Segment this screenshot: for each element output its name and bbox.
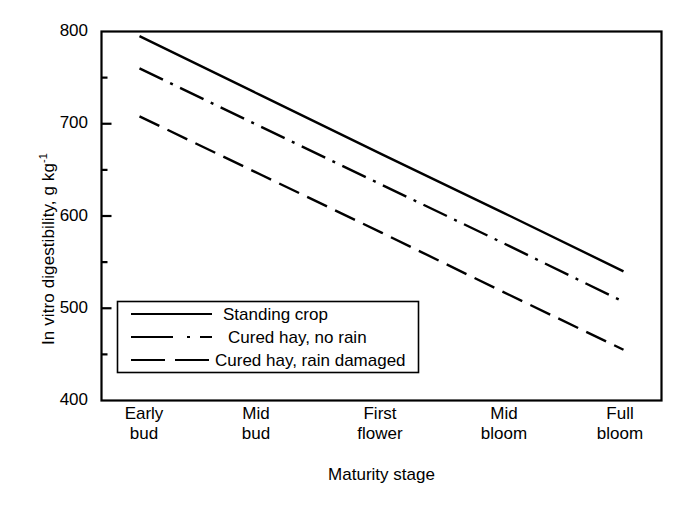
plot-area-svg: [0, 0, 694, 508]
legend-label-cured-hay-rain-damaged: Cured hay, rain damaged: [215, 351, 406, 371]
legend-label-cured-hay-no-rain: Cured hay, no rain: [228, 328, 367, 348]
figure-container: In vitro digestibility, g kg-1 800 700 6…: [0, 0, 694, 508]
legend-label-standing-crop: Standing crop: [223, 305, 328, 325]
series-line-1: [140, 68, 624, 301]
series-line-0: [140, 36, 624, 271]
y-axis-major-ticks: [102, 124, 112, 309]
